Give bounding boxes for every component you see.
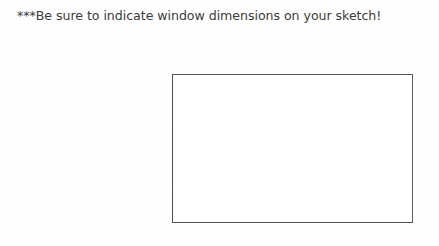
worksheet-page: ***Be sure to indicate window dimensions… [0,0,439,246]
instruction-line: ***Be sure to indicate window dimensions… [17,5,427,25]
sketch-box-interior[interactable] [173,75,412,222]
sketch-drawing-box[interactable] [172,74,413,223]
instruction-text: ***Be sure to indicate window dimensions… [17,8,381,23]
